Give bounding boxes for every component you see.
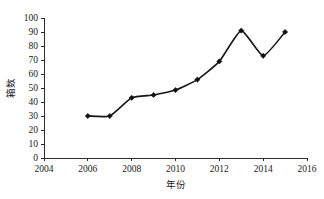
- x-tick-label: 2016: [298, 164, 317, 174]
- x-tick-label: 2014: [254, 164, 273, 174]
- data-point-markers: [85, 28, 287, 119]
- line-chart: 0102030405060708090100 20042006200820102…: [0, 0, 324, 199]
- data-point-marker: [173, 88, 178, 93]
- x-tick-label: 2008: [122, 164, 141, 174]
- y-axis-title: 箱数: [5, 78, 16, 98]
- y-tick-label: 60: [29, 69, 39, 79]
- x-tick-label: 2004: [35, 164, 54, 174]
- data-point-marker: [85, 113, 90, 118]
- x-tick-label: 2012: [210, 164, 229, 174]
- y-tick-label: 70: [29, 55, 39, 65]
- y-tick-label: 40: [29, 97, 39, 107]
- y-tick-label: 0: [33, 153, 38, 163]
- y-tick-label: 20: [29, 125, 39, 135]
- y-axis-tick-labels: 0102030405060708090100: [24, 13, 39, 163]
- data-series-line: [88, 31, 285, 117]
- y-tick-label: 50: [29, 83, 39, 93]
- x-tick-label: 2010: [166, 164, 185, 174]
- y-tick-label: 80: [29, 41, 39, 51]
- data-point-marker: [151, 92, 156, 97]
- chart-canvas: 0102030405060708090100 20042006200820102…: [0, 0, 324, 199]
- y-tick-label: 100: [24, 13, 39, 23]
- y-tick-label: 30: [29, 111, 39, 121]
- y-tick-label: 10: [29, 139, 39, 149]
- x-axis-tick-labels: 2004200620082010201220142016: [35, 164, 317, 174]
- x-axis-title: 年份: [166, 179, 186, 190]
- x-tick-label: 2006: [78, 164, 97, 174]
- y-tick-label: 90: [29, 27, 39, 37]
